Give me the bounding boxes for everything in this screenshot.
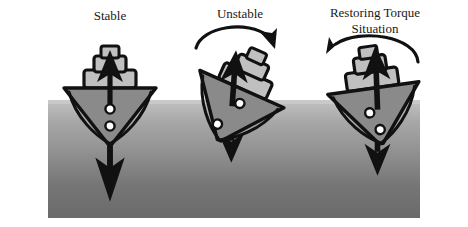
center-of-gravity-marker-stable	[105, 121, 114, 130]
label-restoring-torque-line1: Restoring Torque	[330, 5, 420, 20]
center-of-buoyancy-marker-restoring	[365, 108, 375, 118]
rotation-arrow-clockwise-unstable	[196, 27, 277, 49]
label-unstable: Unstable	[217, 6, 263, 21]
center-of-gravity-marker-restoring	[375, 124, 385, 134]
label-stable: Stable	[94, 8, 127, 23]
diagram-canvas: Stable Unstable Restoring Torque Situati…	[0, 0, 468, 227]
ship-stability-diagram: Stable Unstable Restoring Torque Situati…	[0, 0, 468, 227]
center-of-buoyancy-marker-stable	[105, 104, 114, 113]
label-restoring-torque-line2: Situation	[352, 21, 399, 36]
